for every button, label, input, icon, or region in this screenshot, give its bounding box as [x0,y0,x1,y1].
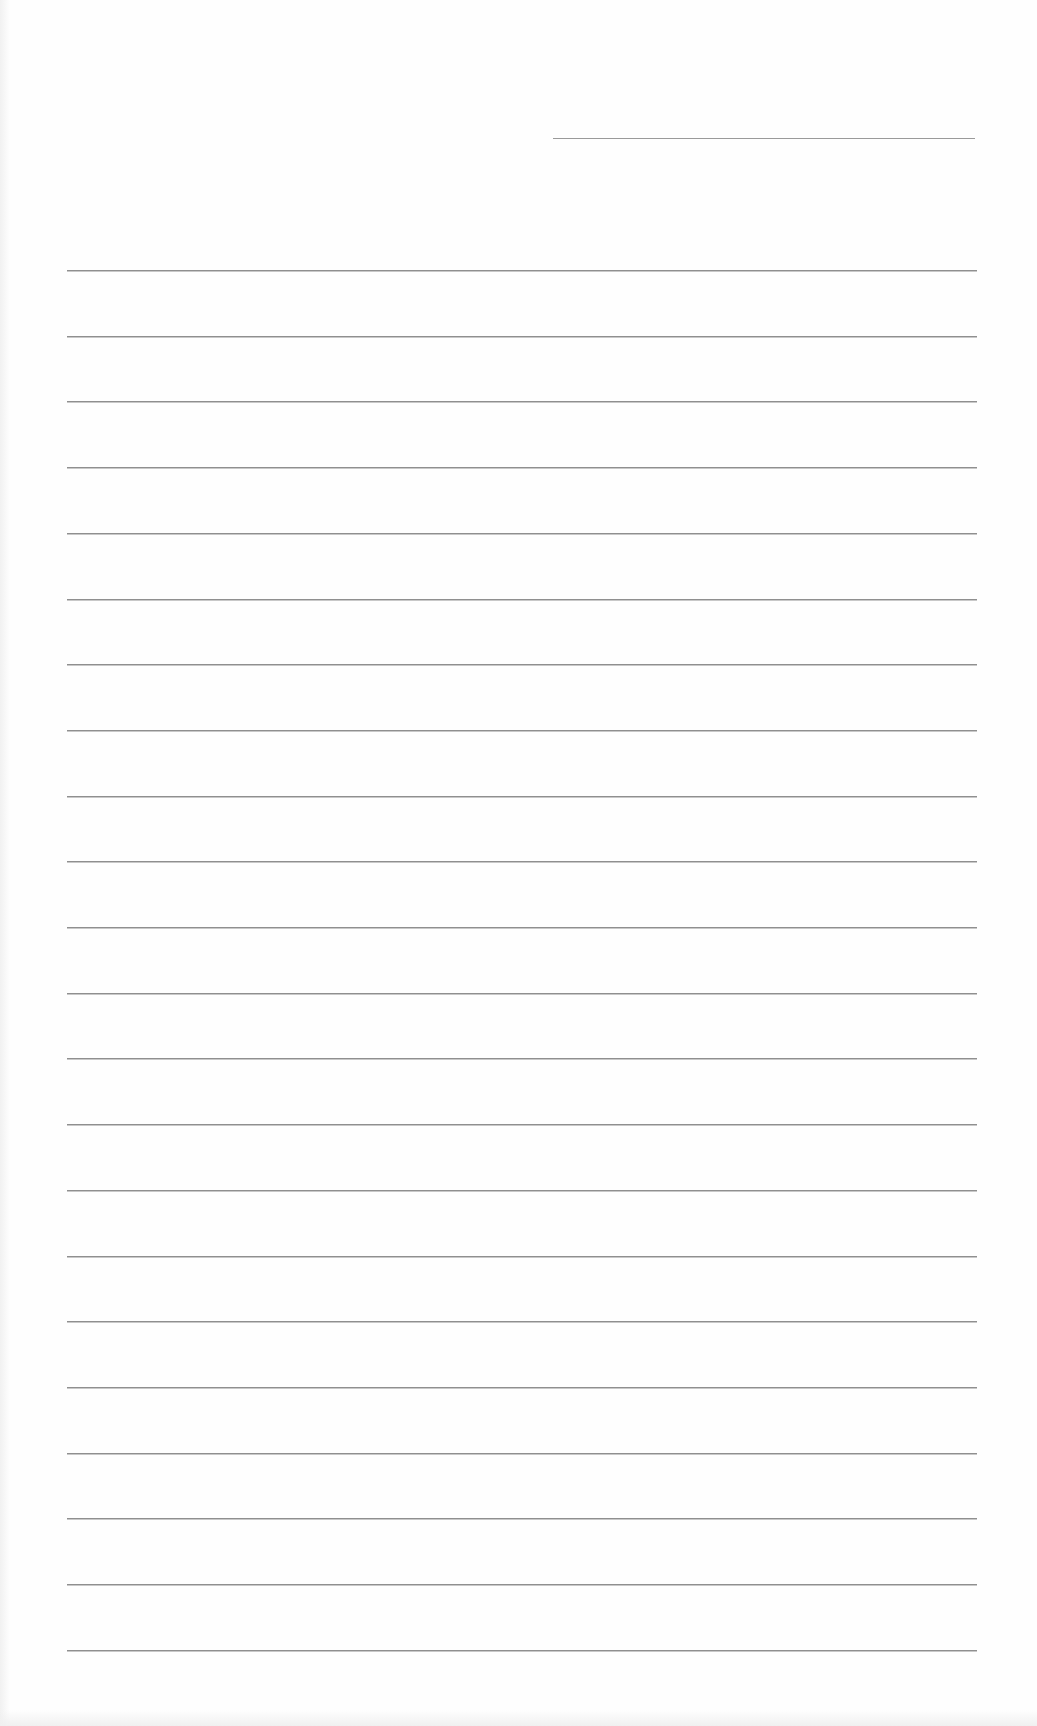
ruled-line [67,467,977,469]
ruled-line [67,730,977,732]
page-edge-shadow-bottom [0,1710,1037,1726]
header-name-line [553,138,975,139]
ruled-line [67,1584,977,1586]
ruled-line [67,927,977,929]
ruled-line [67,993,977,995]
ruled-line [67,1256,977,1258]
ruled-line [67,599,977,601]
ruled-line [67,533,977,535]
ruled-line [67,1058,977,1060]
ruled-line [67,861,977,863]
ruled-line [67,1190,977,1192]
ruled-line [67,401,977,403]
ruled-line [67,1518,977,1520]
ruled-line [67,270,977,272]
ruled-line [67,1387,977,1389]
ruled-line [67,1321,977,1323]
ruled-line [67,1124,977,1126]
ruled-line [67,1453,977,1455]
ruled-line [67,336,977,338]
ruled-line [67,664,977,666]
lined-paper-page [0,0,1037,1726]
page-edge-shadow-left [0,0,10,1726]
ruled-line [67,796,977,798]
ruled-line [67,1650,977,1652]
